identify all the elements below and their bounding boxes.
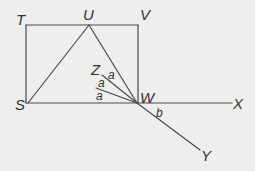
label-u: U	[83, 6, 94, 23]
segment-wy	[137, 103, 200, 150]
geometry-diagram: T U V S W X Y Z a a a b	[0, 0, 255, 171]
segment-su	[28, 25, 89, 103]
label-y: Y	[201, 147, 212, 164]
label-w: W	[140, 89, 156, 106]
angle-label-b: b	[156, 106, 163, 120]
label-t: T	[16, 11, 27, 28]
angle-label-a-lower: a	[96, 89, 103, 103]
label-v: V	[140, 6, 152, 23]
angle-label-a-middle: a	[98, 76, 105, 90]
label-s: S	[15, 96, 25, 113]
angle-label-a-upper: a	[108, 68, 115, 82]
label-x: X	[232, 95, 244, 112]
